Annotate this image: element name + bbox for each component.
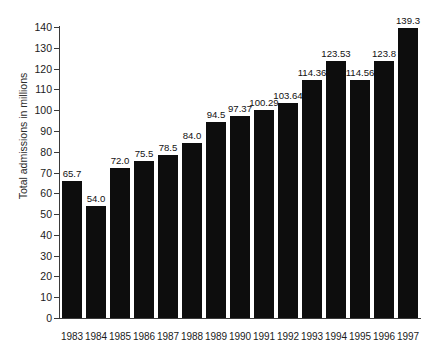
bar [86, 206, 106, 318]
y-tick-label-wrap: 30 [0, 251, 52, 261]
y-tick-label-wrap: 0 [0, 313, 52, 323]
y-tick-label: 140 [18, 22, 52, 32]
y-tick-label-wrap: 130 [0, 43, 52, 53]
y-tick-label-wrap: 90 [0, 126, 52, 136]
y-tick-label-wrap: 20 [0, 271, 52, 281]
bar [254, 110, 274, 318]
bar [182, 143, 202, 318]
y-tick-label: 130 [18, 43, 52, 53]
y-tick-label-wrap: 80 [0, 147, 52, 157]
bar [206, 122, 226, 318]
y-tick-label: 60 [18, 188, 52, 198]
y-tick-label-wrap: 70 [0, 168, 52, 178]
y-tick-label-wrap: 100 [0, 105, 52, 115]
bar-value-label: 65.7 [52, 169, 92, 179]
y-tick-label-wrap: 140 [0, 22, 52, 32]
y-tick-label: 70 [18, 168, 52, 178]
bars-container: 65.754.072.075.578.584.094.597.37100.291… [60, 27, 420, 318]
x-axis-line [59, 318, 421, 319]
y-tick-label: 50 [18, 209, 52, 219]
bar [326, 61, 346, 318]
y-tick-label: 110 [18, 84, 52, 94]
bar-value-label: 123.53 [316, 49, 356, 59]
bar [374, 61, 394, 318]
y-tick-mark [54, 318, 60, 319]
y-tick-label-wrap: 40 [0, 230, 52, 240]
y-tick-label-wrap: 60 [0, 188, 52, 198]
bar [302, 80, 322, 318]
bar [278, 103, 298, 318]
y-tick-label: 80 [18, 147, 52, 157]
y-tick-label: 90 [18, 126, 52, 136]
y-tick-label: 0 [18, 313, 52, 323]
bar [398, 28, 418, 318]
y-tick-label-wrap: 110 [0, 84, 52, 94]
x-axis-label: 1997 [391, 331, 425, 342]
y-tick-label-wrap: 10 [0, 292, 52, 302]
bar [350, 80, 370, 318]
bar [230, 116, 250, 318]
bar [158, 155, 178, 318]
y-tick-label: 120 [18, 64, 52, 74]
y-tick-label: 40 [18, 230, 52, 240]
bar-chart: Total admissions in millions 01020304050… [0, 0, 432, 351]
bar [110, 168, 130, 318]
y-tick-label-wrap: 120 [0, 64, 52, 74]
bar [134, 161, 154, 318]
y-tick-label: 10 [18, 292, 52, 302]
y-tick-label: 30 [18, 251, 52, 261]
y-tick-label: 20 [18, 271, 52, 281]
bar-value-label: 139.3 [388, 16, 428, 26]
y-tick-label-wrap: 50 [0, 209, 52, 219]
y-tick-label: 100 [18, 105, 52, 115]
